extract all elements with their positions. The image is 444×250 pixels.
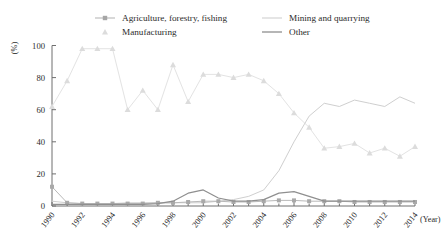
legend-triangle-marker-icon [102,29,108,34]
legend-item[interactable]: Agriculture, forestry, fishing [95,13,227,23]
data-point-marker [277,198,281,202]
data-point-marker [185,99,191,104]
x-tick-label: 2008 [311,211,328,230]
legend-label: Manufacturing [122,27,177,37]
series-mining-and-quarrying [52,97,415,204]
x-tick-label: 2014 [402,210,420,229]
series-line [52,97,415,204]
legend-label: Agriculture, forestry, fishing [122,13,227,23]
series-line [52,49,415,157]
x-tick-label: 2006 [281,211,298,230]
x-tick-label: 2010 [342,211,359,230]
data-point-marker [412,144,418,149]
legend-square-marker-icon [103,16,107,20]
x-axis-title: (Year) [420,215,441,224]
data-point-marker [292,198,296,202]
x-tick-label: 1998 [160,211,177,230]
y-axis-title: (%) [10,42,19,55]
data-point-marker [352,140,358,145]
data-point-marker [50,185,54,189]
x-tick-label: 2004 [251,210,269,229]
y-tick-label: 40 [36,137,45,147]
y-tick-label: 100 [32,41,45,51]
line-chart: Agriculture, forestry, fishingMining and… [0,0,444,250]
legend-item[interactable]: Mining and quarrying [262,13,370,23]
chart-container: Agriculture, forestry, fishingMining and… [0,0,444,250]
data-point-marker [201,199,205,203]
chart-legend: Agriculture, forestry, fishingMining and… [95,13,370,37]
y-tick-label: 20 [36,169,45,179]
x-tick-label: 1996 [130,211,147,230]
data-point-marker [186,200,190,204]
data-point-marker [246,71,252,76]
data-point-marker [261,78,267,83]
series-agriculture-forestry-fishing [50,185,417,206]
legend-item[interactable]: Other [262,27,310,37]
data-point-marker [170,62,176,67]
data-point-marker [140,87,146,92]
data-point-marker [397,153,403,158]
data-point-marker [49,103,55,108]
legend-label: Other [289,27,310,37]
data-point-marker [64,78,70,83]
y-tick-label: 80 [36,73,45,83]
x-tick-label: 1992 [69,211,86,230]
x-tick-label: 1994 [100,210,118,229]
y-tick-label: 60 [36,105,45,115]
data-point-marker [307,199,311,203]
legend-item[interactable]: Manufacturing [102,27,177,37]
x-tick-label: 2000 [190,211,207,230]
data-point-marker [382,145,388,150]
y-tick-label: 0 [41,201,45,211]
x-tick-label: 2012 [372,211,389,230]
x-tick-label: 2002 [221,211,238,230]
data-point-marker [216,199,220,203]
legend-label: Mining and quarrying [289,13,370,23]
x-tick-label: 1990 [39,211,56,230]
